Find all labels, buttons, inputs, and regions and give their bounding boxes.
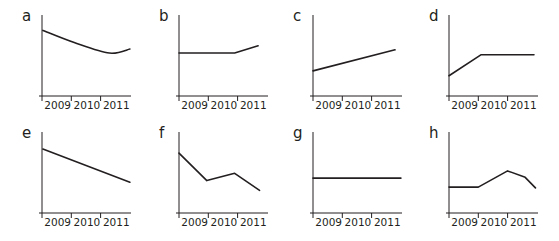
x-tick-label: 2010 <box>211 99 238 111</box>
panel-a: a200920102011 <box>22 7 131 111</box>
chart-grid: a200920102011b200920102011c200920102011d… <box>0 0 559 241</box>
panel-label: f <box>159 124 165 142</box>
x-tick-label: 2010 <box>481 99 508 111</box>
x-tick-label: 2010 <box>345 99 372 111</box>
panel-f: f200920102011 <box>159 124 268 228</box>
x-tick-label: 2011 <box>374 216 401 228</box>
x-tick-label: 2009 <box>451 216 478 228</box>
x-tick-label: 2010 <box>74 216 101 228</box>
line-series <box>449 171 535 188</box>
x-tick-label: 2010 <box>481 216 508 228</box>
x-tick-label: 2010 <box>345 216 372 228</box>
x-tick-label: 2009 <box>451 99 478 111</box>
x-tick-label: 2011 <box>240 216 267 228</box>
panel-label: g <box>293 124 303 142</box>
x-tick-label: 2011 <box>510 99 537 111</box>
panel-label: h <box>429 124 439 142</box>
x-tick-label: 2009 <box>315 216 342 228</box>
panel-label: e <box>22 124 31 142</box>
line-series <box>43 149 130 182</box>
panel-g: g200920102011 <box>293 124 402 228</box>
x-tick-label: 2009 <box>44 216 71 228</box>
line-series <box>449 55 534 76</box>
x-tick-label: 2009 <box>315 99 342 111</box>
small-multiples-line-charts: a200920102011b200920102011c200920102011d… <box>0 0 559 241</box>
x-tick-label: 2011 <box>374 99 401 111</box>
panel-label: c <box>293 7 301 25</box>
line-series <box>179 46 258 53</box>
x-tick-label: 2009 <box>181 216 208 228</box>
x-tick-label: 2010 <box>211 216 238 228</box>
line-series <box>43 30 130 53</box>
line-series <box>179 153 260 190</box>
x-tick-label: 2010 <box>74 99 101 111</box>
panel-d: d200920102011 <box>429 7 538 111</box>
panel-c: c200920102011 <box>293 7 402 111</box>
panel-label: d <box>429 7 439 25</box>
x-tick-label: 2009 <box>181 99 208 111</box>
panel-e: e200920102011 <box>22 124 131 228</box>
x-tick-label: 2011 <box>103 99 130 111</box>
x-tick-label: 2011 <box>103 216 130 228</box>
panel-label: b <box>159 7 169 25</box>
line-series <box>313 50 395 71</box>
panel-h: h200920102011 <box>429 124 538 228</box>
panel-label: a <box>22 7 31 25</box>
x-tick-label: 2009 <box>44 99 71 111</box>
panel-b: b200920102011 <box>159 7 268 111</box>
x-tick-label: 2011 <box>240 99 267 111</box>
x-tick-label: 2011 <box>510 216 537 228</box>
